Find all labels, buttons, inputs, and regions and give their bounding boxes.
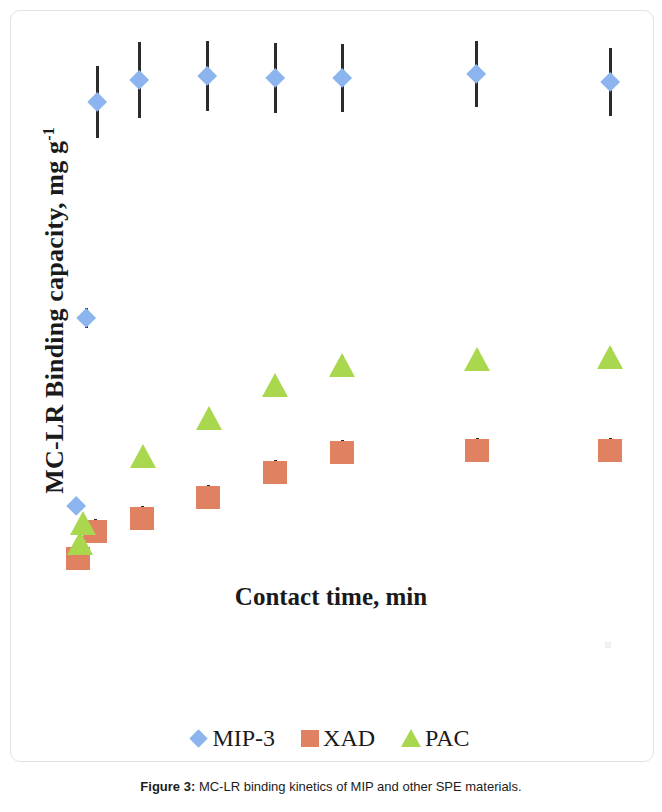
diamond-marker-icon [129, 70, 149, 90]
y-axis-title: MC-LR Binding capacity, mg g-1 [40, 80, 71, 540]
square-marker-icon [196, 486, 220, 509]
triangle-marker-icon [262, 373, 288, 397]
triangle-marker-icon [130, 444, 156, 468]
figure-caption: Figure 3: MC-LR binding kinetics of MIP … [0, 779, 662, 794]
legend-label: MIP-3 [212, 726, 275, 750]
square-swatch-icon [301, 730, 319, 747]
diamond-marker-icon [600, 72, 620, 92]
figure-caption-label: Figure 3: [140, 779, 195, 794]
square-marker-icon [130, 507, 154, 530]
triangle-marker-icon [329, 353, 355, 377]
stray-artifact-mark [605, 642, 611, 648]
plot-area: MC-LR Binding capacity, mg g-1 Contact t… [0, 0, 662, 762]
x-axis-title: Contact time, min [0, 583, 662, 611]
y-axis-title-exponent: -1 [40, 127, 57, 141]
square-marker-icon [263, 461, 287, 484]
chart-legend: MIP-3XADPAC [0, 726, 662, 750]
figure-container: MC-LR Binding capacity, mg g-1 Contact t… [0, 0, 662, 812]
triangle-marker-icon [196, 406, 222, 430]
square-marker-icon [598, 439, 622, 462]
diamond-marker-icon [466, 64, 486, 84]
diamond-marker-icon [197, 66, 217, 86]
diamond-marker-icon [265, 68, 285, 88]
diamond-marker-icon [332, 68, 352, 88]
square-marker-icon [465, 439, 489, 462]
diamond-swatch-icon [190, 729, 208, 747]
figure-caption-text: MC-LR binding kinetics of MIP and other … [195, 779, 521, 794]
legend-label: XAD [323, 726, 375, 750]
legend-entry-pac[interactable]: PAC [401, 726, 469, 750]
diamond-marker-icon [76, 308, 96, 328]
triangle-marker-icon [464, 347, 490, 371]
legend-entry-mip-3[interactable]: MIP-3 [192, 726, 275, 750]
legend-label: PAC [425, 726, 469, 750]
square-marker-icon [330, 441, 354, 464]
y-axis-title-text: MC-LR Binding capacity, mg g [40, 141, 69, 494]
triangle-swatch-icon [401, 729, 421, 747]
diamond-marker-icon [87, 92, 107, 112]
triangle-marker-icon [67, 531, 93, 555]
legend-entry-xad[interactable]: XAD [301, 726, 375, 750]
triangle-marker-icon [597, 345, 623, 369]
